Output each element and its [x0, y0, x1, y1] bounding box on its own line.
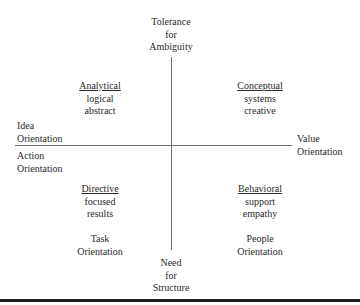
- axis-label-need-for-structure: Need for Structure: [131, 257, 211, 295]
- label-line: Action: [17, 150, 87, 163]
- quadrant-trait: empathy: [220, 208, 300, 221]
- label-line: Orientation: [220, 246, 300, 259]
- quadrant-trait: support: [220, 196, 300, 209]
- orientation-people: People Orientation: [220, 233, 300, 258]
- label-line: Tolerance: [131, 16, 211, 29]
- label-line: Idea: [17, 120, 87, 133]
- quadrant-title: Behavioral: [220, 183, 300, 196]
- quadrant-analytical: Analytical logical abstract: [60, 80, 140, 118]
- label-line: Orientation: [297, 146, 360, 159]
- quadrant-behavioral: Behavioral support empathy: [220, 183, 300, 221]
- quadrant-directive: Directive focused results: [60, 183, 140, 221]
- axis-label-action-orientation: Action Orientation: [17, 150, 87, 175]
- horizontal-axis-line: [15, 145, 292, 146]
- axis-label-value-orientation: Value Orientation: [297, 133, 360, 158]
- quadrant-trait: systems: [220, 93, 300, 106]
- quadrant-trait: abstract: [60, 105, 140, 118]
- label-line: Orientation: [60, 246, 140, 259]
- label-line: Task: [60, 233, 140, 246]
- label-line: for: [131, 270, 211, 283]
- label-line: Need: [131, 257, 211, 270]
- quadrant-title: Conceptual: [220, 80, 300, 93]
- vertical-axis-line: [171, 57, 172, 250]
- label-line: Value: [297, 133, 360, 146]
- quadrant-title: Analytical: [60, 80, 140, 93]
- orientation-task: Task Orientation: [60, 233, 140, 258]
- bottom-divider: [0, 299, 360, 302]
- quadrant-trait: creative: [220, 105, 300, 118]
- label-line: Orientation: [17, 133, 87, 146]
- label-line: for: [131, 29, 211, 42]
- label-line: People: [220, 233, 300, 246]
- label-line: Structure: [131, 282, 211, 295]
- quadrant-trait: focused: [60, 196, 140, 209]
- label-line: Ambiguity: [131, 41, 211, 54]
- quadrant-trait: logical: [60, 93, 140, 106]
- quadrant-trait: results: [60, 208, 140, 221]
- axis-label-tolerance-for-ambiguity: Tolerance for Ambiguity: [131, 16, 211, 54]
- label-line: Orientation: [17, 163, 87, 176]
- axis-label-idea-orientation: Idea Orientation: [17, 120, 87, 145]
- quadrant-conceptual: Conceptual systems creative: [220, 80, 300, 118]
- quadrant-title: Directive: [60, 183, 140, 196]
